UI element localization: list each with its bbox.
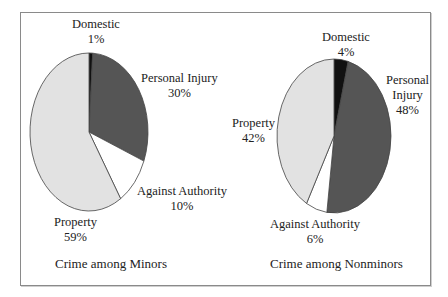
label-nonminors-domestic: Domestic 4% xyxy=(322,30,370,60)
pie-charts xyxy=(0,0,448,297)
label-pct: 59% xyxy=(54,230,97,245)
label-pct: 48% xyxy=(386,103,429,118)
label-pct: 10% xyxy=(137,199,227,214)
label-pct: 42% xyxy=(232,131,275,146)
caption-nonminors: Crime among Nonminors xyxy=(270,256,403,272)
pie-minors xyxy=(30,53,148,211)
label-pct: 1% xyxy=(72,32,120,47)
label-minors-personal-injury: Personal Injury 30% xyxy=(141,71,218,101)
caption-minors: Crime among Minors xyxy=(55,256,167,272)
label-text: Injury xyxy=(386,88,429,103)
label-nonminors-against-authority: Against Authority 6% xyxy=(270,217,360,247)
label-minors-property: Property 59% xyxy=(54,215,97,245)
label-text: Property xyxy=(232,116,275,131)
label-text: Property xyxy=(54,215,97,230)
label-text: Personal xyxy=(386,73,429,88)
label-pct: 30% xyxy=(141,86,218,101)
label-minors-domestic: Domestic 1% xyxy=(72,17,120,47)
pie-nonminors xyxy=(277,59,391,213)
label-text: Against Authority xyxy=(137,184,227,199)
label-text: Domestic xyxy=(72,17,120,32)
label-nonminors-property: Property 42% xyxy=(232,116,275,146)
label-text: Personal Injury xyxy=(141,71,218,86)
label-pct: 6% xyxy=(270,232,360,247)
label-pct: 4% xyxy=(322,45,370,60)
label-nonminors-personal-injury: Personal Injury 48% xyxy=(386,73,429,118)
label-minors-against-authority: Against Authority 10% xyxy=(137,184,227,214)
label-text: Against Authority xyxy=(270,217,360,232)
label-text: Domestic xyxy=(322,30,370,45)
